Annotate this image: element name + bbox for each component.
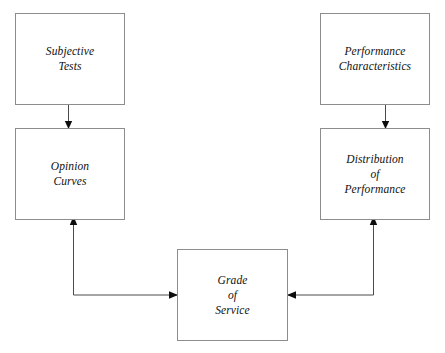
node-label-performance-characteristics: Performance Characteristics	[333, 44, 417, 74]
node-label-grade-of-service: Grade of Service	[209, 273, 256, 318]
node-grade-of-service[interactable]: Grade of Service	[177, 249, 288, 341]
edge-opinion-curves-to-grade-of-service	[70, 216, 178, 299]
diagram-canvas: Subjective Tests Opinion Curves Performa…	[0, 0, 445, 353]
node-opinion-curves[interactable]: Opinion Curves	[15, 128, 125, 220]
edge-performance-characteristics-to-distribution-of-performance	[382, 105, 389, 129]
edge-subjective-tests-to-opinion-curves	[65, 105, 72, 129]
node-performance-characteristics[interactable]: Performance Characteristics	[320, 13, 430, 105]
node-label-distribution-of-performance: Distribution of Performance	[338, 152, 411, 197]
node-label-subjective-tests: Subjective Tests	[40, 44, 100, 74]
node-label-opinion-curves: Opinion Curves	[45, 159, 95, 189]
node-distribution-of-performance[interactable]: Distribution of Performance	[320, 128, 430, 220]
edge-distribution-of-performance-to-grade-of-service	[287, 216, 377, 299]
node-subjective-tests[interactable]: Subjective Tests	[15, 13, 125, 105]
